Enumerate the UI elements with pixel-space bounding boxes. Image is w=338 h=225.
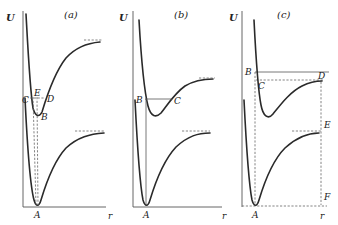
panel-c: U (c) r B C D E F A xyxy=(229,9,331,221)
point-label-b: B xyxy=(40,112,48,122)
x-axis-label: r xyxy=(222,211,227,221)
transition-line-e xyxy=(37,97,38,205)
panel-title: (c) xyxy=(277,9,291,20)
point-label-e: E xyxy=(33,88,41,98)
point-label-b: B xyxy=(244,67,252,77)
point-label-f: F xyxy=(323,192,331,202)
point-label-d: D xyxy=(317,71,325,81)
y-axis-label: U xyxy=(119,12,129,23)
excited-state-curve xyxy=(26,14,100,115)
panel-a: U (a) r C E D B A xyxy=(6,9,113,221)
x-axis-label: r xyxy=(320,211,325,221)
panel-title: (b) xyxy=(174,9,188,20)
point-label-a: A xyxy=(251,210,259,220)
point-label-e: E xyxy=(323,120,331,130)
y-axis-label: U xyxy=(6,12,16,23)
point-label-c: C xyxy=(258,81,265,91)
panel-b: U (b) r B C A xyxy=(119,9,227,221)
point-label-d: D xyxy=(46,94,54,104)
potential-energy-diagram: U (a) r C E D B A U (b) r B xyxy=(0,0,338,225)
point-label-a: A xyxy=(33,210,41,220)
x-axis-label: r xyxy=(108,211,113,221)
point-label-b: B xyxy=(135,95,143,105)
panel-title: (a) xyxy=(64,9,78,20)
y-axis-label: U xyxy=(229,12,239,23)
point-label-a: A xyxy=(142,210,150,220)
point-label-c: C xyxy=(22,95,29,105)
excited-state-curve xyxy=(254,20,322,117)
point-label-c: C xyxy=(174,96,181,106)
